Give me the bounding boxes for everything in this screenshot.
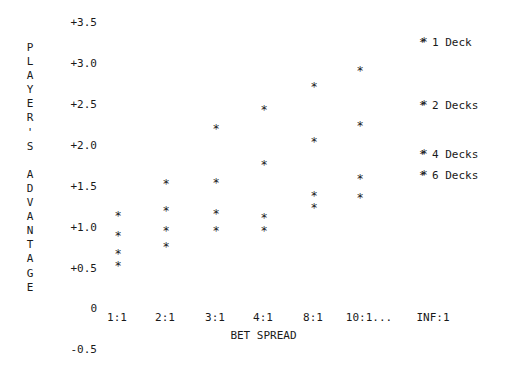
- y-axis-title-char: [22, 154, 38, 168]
- x-axis-tick-label: INF:1: [403, 312, 463, 323]
- x-axis-tick-label: 10:1...: [339, 312, 399, 323]
- y-axis-title-char: E: [22, 281, 38, 295]
- y-axis-tick-label: +1.5: [55, 181, 97, 192]
- y-axis-title-char: A: [22, 252, 38, 266]
- x-axis-title: BET SPREAD: [0, 330, 527, 341]
- data-point-marker: *: [309, 202, 319, 214]
- data-point-marker: *: [161, 178, 171, 190]
- y-axis-tick-label: +3.5: [55, 17, 97, 28]
- y-axis-title: PLAYER'S ADVANTAGE: [22, 41, 38, 295]
- legend-item: *4 Decks: [419, 148, 478, 161]
- data-point-marker: *: [309, 136, 319, 148]
- y-axis-title-char: A: [22, 168, 38, 182]
- data-point-marker: *: [355, 120, 365, 132]
- data-point-marker: *: [211, 225, 221, 237]
- data-point-marker: *: [161, 225, 171, 237]
- y-axis-title-char: S: [22, 140, 38, 154]
- legend-item-label: 1 Deck: [432, 36, 472, 49]
- y-axis-tick-label: +3.0: [55, 58, 97, 69]
- y-axis-title-char: V: [22, 196, 38, 210]
- y-axis-title-char: L: [22, 55, 38, 69]
- data-point-marker: *: [113, 210, 123, 222]
- legend-item-label: 4 Decks: [432, 148, 478, 161]
- legend-marker-star-icon: *: [419, 36, 432, 49]
- data-point-marker: *: [161, 241, 171, 253]
- y-axis-title-char: A: [22, 210, 38, 224]
- y-axis-title-char: T: [22, 238, 38, 252]
- y-axis-title-char: P: [22, 41, 38, 55]
- data-point-marker: *: [309, 81, 319, 93]
- data-point-marker: *: [259, 225, 269, 237]
- legend-item: *2 Decks: [419, 99, 478, 112]
- data-point-marker: *: [355, 65, 365, 77]
- data-point-marker: *: [259, 212, 269, 224]
- legend-marker-star-icon: *: [419, 148, 432, 161]
- y-axis-tick-label: +0.5: [55, 263, 97, 274]
- legend-marker-star-icon: *: [419, 99, 432, 112]
- y-axis-tick-label: +2.5: [55, 99, 97, 110]
- x-axis-tick-label: 8:1: [283, 312, 343, 323]
- y-axis-tick-label: +2.0: [55, 140, 97, 151]
- legend-marker-star-icon: *: [419, 169, 432, 182]
- data-point-marker: *: [161, 205, 171, 217]
- legend-item-label: 6 Decks: [432, 169, 478, 182]
- data-point-marker: *: [113, 230, 123, 242]
- y-axis-title-char: R: [22, 111, 38, 125]
- y-axis-tick-label: +1.0: [55, 222, 97, 233]
- y-axis-title-char: ': [22, 126, 38, 140]
- y-axis-title-char: N: [22, 224, 38, 238]
- chart-canvas: PLAYER'S ADVANTAGE +3.5+3.0+2.5+2.0+1.5+…: [0, 0, 527, 371]
- data-point-marker: *: [211, 123, 221, 135]
- legend-item: *6 Decks: [419, 169, 478, 182]
- data-point-marker: *: [211, 177, 221, 189]
- y-axis-title-char: G: [22, 267, 38, 281]
- data-point-marker: *: [355, 173, 365, 185]
- data-point-marker: *: [211, 208, 221, 220]
- data-point-marker: *: [259, 104, 269, 116]
- legend-item: *1 Deck: [419, 36, 472, 49]
- y-axis-title-char: Y: [22, 83, 38, 97]
- y-axis-title-char: E: [22, 97, 38, 111]
- y-axis-title-char: D: [22, 182, 38, 196]
- y-axis-tick-label: -0.5: [55, 344, 97, 355]
- data-point-marker: *: [355, 192, 365, 204]
- y-axis-title-char: A: [22, 69, 38, 83]
- data-point-marker: *: [259, 159, 269, 171]
- data-point-marker: *: [113, 260, 123, 272]
- legend-item-label: 2 Decks: [432, 99, 478, 112]
